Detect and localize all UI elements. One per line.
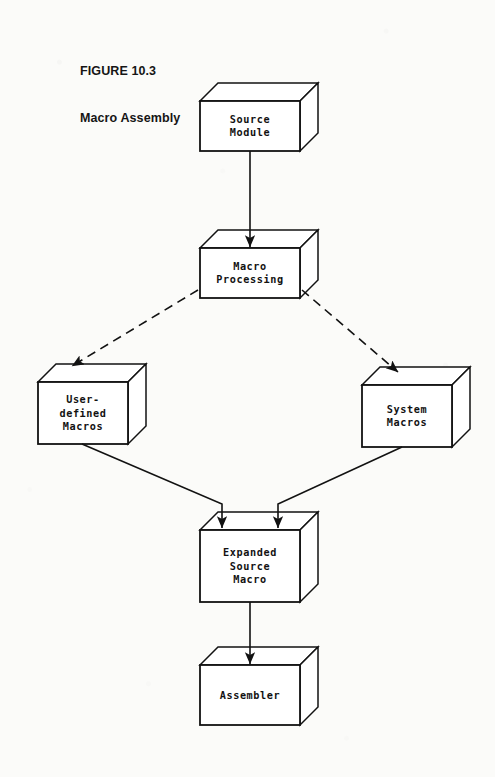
node-label-expanded-source-macro: Macro	[233, 574, 267, 585]
node-label-source-module: Source	[230, 114, 270, 125]
edge-macro-processing-to-user-macros	[72, 290, 198, 366]
node-label-system-macros: System	[387, 404, 427, 415]
node-label-macro-processing: Processing	[216, 274, 283, 285]
edge-user-macros-to-expanded	[82, 444, 222, 528]
box-top-face	[200, 647, 318, 665]
node-label-system-macros: Macros	[387, 417, 427, 428]
box-top-face	[200, 83, 318, 101]
node-label-source-module: Module	[230, 127, 270, 138]
node-assembler	[200, 647, 318, 725]
node-label-expanded-source-macro: Source	[230, 561, 270, 572]
node-label-user-defined-macros: Macros	[63, 421, 103, 432]
box-front-face	[200, 101, 300, 151]
node-label-assembler: Assembler	[220, 690, 281, 701]
edge-macro-processing-to-system-macros	[302, 290, 398, 372]
box-front-face	[200, 248, 300, 298]
node-label-user-defined-macros: User-	[66, 394, 100, 405]
box-top-face	[200, 230, 318, 248]
node-label-macro-processing: Macro	[233, 261, 267, 272]
box-front-face	[362, 385, 452, 447]
macro-assembly-diagram: SourceModuleMacroProcessingUser-definedM…	[0, 0, 495, 777]
box-top-face	[200, 512, 318, 530]
node-label-expanded-source-macro: Expanded	[223, 547, 277, 558]
node-label-user-defined-macros: defined	[59, 408, 106, 419]
